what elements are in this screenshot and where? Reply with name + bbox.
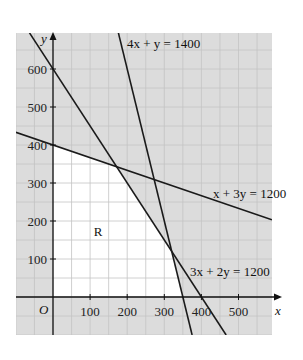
line-label: 4x + y = 1400 [127, 36, 200, 51]
y-tick-label: 400 [28, 138, 48, 153]
y-tick-label: 300 [28, 176, 48, 191]
line-label: 3x + 2y = 1200 [190, 264, 270, 279]
origin-label: O [39, 302, 49, 317]
y-tick-label: 500 [28, 100, 48, 115]
x-tick-label: 400 [192, 304, 212, 319]
y-tick-label: 100 [28, 252, 48, 267]
linear-programming-chart: 100200300400500100200300400500600xyO 4x … [0, 0, 303, 360]
line-label: x + 3y = 1200 [213, 186, 286, 201]
x-tick-label: 300 [155, 304, 175, 319]
x-axis-arrow-icon [274, 294, 282, 301]
x-tick-label: 100 [80, 304, 100, 319]
region-label: R [94, 224, 103, 239]
y-axis-label: y [39, 31, 47, 46]
y-tick-label: 200 [28, 214, 48, 229]
y-tick-label: 600 [28, 62, 48, 77]
x-tick-label: 500 [229, 304, 249, 319]
x-tick-label: 200 [117, 304, 137, 319]
x-axis-label: x [274, 303, 281, 318]
